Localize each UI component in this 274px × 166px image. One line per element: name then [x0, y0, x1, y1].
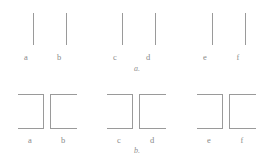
panel-b: a b c d e f b.: [0, 83, 274, 166]
panel-a: a b c d e f a.: [0, 0, 274, 83]
bracket-f: [230, 95, 256, 129]
panel-a-label-b: b: [52, 50, 66, 64]
bracket-c: [107, 95, 133, 129]
panel-a-label-e: e: [198, 50, 212, 64]
panel-b-label-e: e: [202, 133, 216, 147]
panel-a-label-a: a: [19, 50, 33, 64]
figure-root: a b c d e f a.: [0, 0, 274, 166]
panel-b-label-a: a: [23, 133, 37, 147]
panel-b-caption: b.: [0, 146, 274, 155]
panel-b-label-d: d: [145, 133, 159, 147]
panel-a-label-f: f: [231, 50, 245, 64]
panel-b-label-f: f: [235, 133, 249, 147]
bracket-e: [197, 95, 223, 129]
panel-b-label-c: c: [112, 133, 126, 147]
panel-b-label-b: b: [56, 133, 70, 147]
bracket-d: [140, 95, 166, 129]
bracket-a: [18, 95, 44, 129]
panel-a-caption: a.: [0, 64, 274, 73]
panel-b-label-row: a b c d e f: [0, 133, 274, 147]
panel-a-label-d: d: [141, 50, 155, 64]
panel-a-label-c: c: [108, 50, 122, 64]
bracket-b: [51, 95, 77, 129]
panel-a-label-row: a b c d e f: [0, 50, 274, 64]
